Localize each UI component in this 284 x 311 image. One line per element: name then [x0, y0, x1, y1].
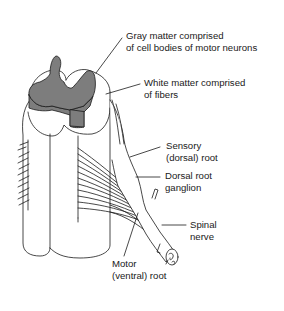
label-white-matter-line1: White matter comprised	[144, 77, 245, 89]
label-white-matter-line2: of fibers	[144, 89, 245, 101]
label-dorsal-root-ganglion-line1: Dorsal root	[165, 170, 212, 182]
label-motor-root-line2: (ventral) root	[112, 270, 166, 282]
label-motor-root: Motor (ventral) root	[112, 258, 166, 282]
label-gray-matter-line1: Gray matter comprised	[126, 30, 257, 42]
label-sensory-root-line2: (dorsal) root	[166, 152, 218, 164]
leader-gray-matter	[96, 38, 122, 73]
leader-white-matter	[106, 84, 140, 94]
gray-matter	[29, 56, 96, 128]
leader-motor-root	[124, 213, 138, 256]
label-dorsal-root-ganglion-line2: ganglion	[165, 182, 212, 194]
leader-sensory-root	[130, 147, 160, 157]
label-gray-matter-line2: of cell bodies of motor neurons	[126, 42, 257, 54]
label-spinal-nerve: Spinal nerve	[190, 219, 217, 243]
label-dorsal-root-ganglion: Dorsal root ganglion	[165, 170, 212, 194]
label-gray-matter: Gray matter comprised of cell bodies of …	[126, 30, 257, 54]
label-spinal-nerve-line2: nerve	[190, 231, 217, 243]
label-motor-root-line1: Motor	[112, 258, 166, 270]
label-white-matter: White matter comprised of fibers	[144, 77, 245, 101]
label-sensory-root: Sensory (dorsal) root	[166, 140, 218, 164]
label-spinal-nerve-line1: Spinal	[190, 219, 217, 231]
label-sensory-root-line1: Sensory	[166, 140, 218, 152]
